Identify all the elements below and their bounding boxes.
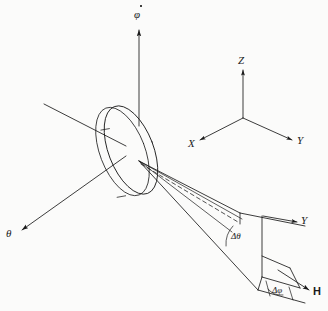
- delta-phi-label: Δφ: [272, 286, 282, 295]
- solid-angle-cone: [139, 161, 258, 290]
- magnetic-field-vector: [278, 270, 309, 290]
- triad-x-axis: [200, 118, 243, 140]
- diagram-canvas: φ θ Z X Y Y Δθ Δφ H: [0, 0, 328, 311]
- rotating-disk: [85, 99, 169, 203]
- field-h-label: H: [313, 286, 321, 297]
- cone-center-dashed-line: [141, 164, 238, 222]
- triad-z-label: Z: [238, 55, 244, 66]
- patch-base-upper: [262, 256, 290, 268]
- disk-rim-top: [101, 129, 110, 131]
- phi-dot-accent: [140, 5, 142, 7]
- cone-edge-lower: [139, 161, 258, 290]
- disk-rim-bottom: [117, 196, 126, 198]
- disk-normal-line: [44, 104, 126, 146]
- patch-base-left: [258, 277, 262, 290]
- cone-edge-upper-inner: [139, 161, 242, 219]
- patch-y-label: Y: [301, 215, 307, 226]
- diagram-vector-layer: [0, 0, 328, 311]
- theta-axis-arrow: [22, 156, 126, 230]
- delta-theta-label: Δθ: [231, 232, 241, 241]
- disk-front-face: [93, 99, 168, 202]
- delta-phi-tick-left: [266, 281, 270, 296]
- cone-edge-mid: [139, 161, 232, 232]
- triad-y-label: Y: [297, 135, 303, 146]
- patch-top-edge: [240, 213, 305, 226]
- triad-x-label: X: [188, 138, 195, 149]
- disk-back-face: [85, 100, 160, 203]
- patch-base-right: [290, 268, 300, 288]
- theta-label: θ: [6, 228, 11, 239]
- triad-y-axis: [243, 118, 292, 140]
- xyz-coordinate-triad: [200, 70, 292, 140]
- phi-dot-label: φ: [134, 9, 140, 20]
- delta-phi-tick-right: [289, 287, 293, 300]
